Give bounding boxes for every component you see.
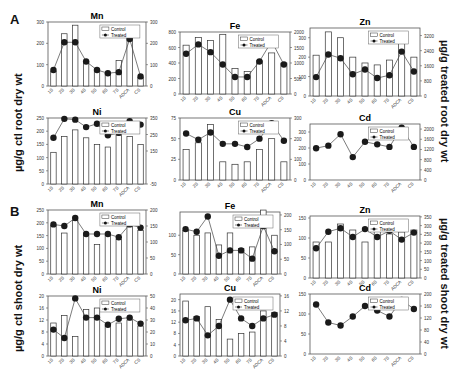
svg-text:25: 25 <box>171 157 177 162</box>
svg-text:7S: 7S <box>112 357 119 364</box>
svg-text:50: 50 <box>301 256 307 261</box>
svg-text:2000: 2000 <box>294 30 305 35</box>
legend: ControlTreated <box>369 127 409 140</box>
svg-text:3S: 3S <box>334 355 341 362</box>
svg-text:4S: 4S <box>212 357 219 364</box>
treated-marker <box>325 229 331 235</box>
treated-marker <box>105 322 111 328</box>
subplot-a-fe: Fe020040060080005001000150020001S2S3S4S5… <box>168 21 304 108</box>
treated-marker <box>207 129 213 135</box>
treated-marker <box>386 72 392 78</box>
control-bar <box>94 144 99 184</box>
svg-text:200: 200 <box>36 221 44 226</box>
svg-text:50: 50 <box>150 294 156 299</box>
svg-text:250: 250 <box>150 133 158 138</box>
svg-text:Treated: Treated <box>111 307 127 312</box>
svg-text:Treated: Treated <box>111 221 127 226</box>
treated-marker <box>238 315 244 321</box>
svg-text:6S: 6S <box>101 185 108 192</box>
treated-marker <box>362 139 368 145</box>
svg-text:Treated: Treated <box>380 39 396 44</box>
svg-text:10: 10 <box>150 342 156 347</box>
svg-text:ADCA: ADCA <box>390 355 402 367</box>
control-bar <box>83 61 88 86</box>
treated-marker <box>281 138 287 144</box>
svg-text:100: 100 <box>298 312 306 317</box>
legend: ControlTreated <box>369 219 409 232</box>
svg-text:150: 150 <box>36 234 44 239</box>
svg-text:0: 0 <box>294 92 297 97</box>
svg-text:1S: 1S <box>179 357 186 364</box>
treated-marker <box>50 221 56 227</box>
svg-text:Control: Control <box>250 37 265 42</box>
svg-text:5S: 5S <box>90 87 97 94</box>
svg-text:2S: 2S <box>322 97 329 104</box>
treated-marker <box>182 226 188 232</box>
svg-text:CS: CS <box>133 185 141 193</box>
svg-text:300: 300 <box>298 130 306 135</box>
treated-marker <box>374 141 380 147</box>
svg-text:40: 40 <box>424 340 430 345</box>
svg-text:2S: 2S <box>192 95 199 102</box>
control-bar <box>269 53 275 94</box>
treated-marker <box>249 323 255 329</box>
treated-marker <box>216 323 222 329</box>
svg-text:0: 0 <box>41 272 44 277</box>
treated-marker <box>350 234 356 240</box>
svg-text:5S: 5S <box>223 357 230 364</box>
svg-text:40: 40 <box>150 306 156 311</box>
treated-marker <box>220 141 226 147</box>
svg-text:2400: 2400 <box>424 49 435 54</box>
treated-marker <box>362 66 368 72</box>
svg-text:300: 300 <box>294 116 302 121</box>
control-bar <box>62 233 67 274</box>
svg-text:7S: 7S <box>245 357 252 364</box>
svg-text:ADCA: ADCA <box>260 95 272 107</box>
svg-text:5S: 5S <box>358 181 365 188</box>
svg-text:8: 8 <box>284 324 287 329</box>
control-bar <box>194 235 200 274</box>
svg-text:400: 400 <box>168 61 176 66</box>
svg-text:CS: CS <box>407 279 415 287</box>
svg-text:1500: 1500 <box>294 46 305 51</box>
svg-text:200: 200 <box>150 208 158 213</box>
treated-marker <box>256 58 262 64</box>
svg-text:100: 100 <box>298 75 306 80</box>
control-bar <box>94 245 99 274</box>
svg-text:1600: 1600 <box>424 64 435 69</box>
svg-text:160: 160 <box>424 304 432 309</box>
svg-text:0: 0 <box>173 92 176 97</box>
treated-marker <box>411 229 417 235</box>
control-bar <box>73 130 78 184</box>
treated-marker <box>137 320 143 326</box>
svg-text:150: 150 <box>284 228 292 233</box>
svg-text:CS: CS <box>277 181 285 189</box>
svg-text:1S: 1S <box>179 95 186 102</box>
treated-marker <box>193 315 199 321</box>
svg-text:5S: 5S <box>228 95 235 102</box>
svg-text:4: 4 <box>41 342 44 347</box>
svg-text:5S: 5S <box>228 181 235 188</box>
svg-text:7S: 7S <box>253 181 260 188</box>
svg-text:150: 150 <box>36 142 44 147</box>
svg-text:5S: 5S <box>358 97 365 104</box>
control-bar <box>249 332 255 356</box>
svg-text:2S: 2S <box>190 357 197 364</box>
treated-marker <box>350 313 356 319</box>
treated-marker <box>116 316 122 322</box>
svg-text:350: 350 <box>150 116 158 121</box>
svg-text:5S: 5S <box>90 185 97 192</box>
subplot-b-cd: Cd050100150040801201602001S2S3S4S5S6S7SA… <box>298 283 432 368</box>
svg-text:1S: 1S <box>47 357 54 364</box>
legend: ControlTreated <box>239 35 279 48</box>
svg-text:20: 20 <box>150 330 156 335</box>
svg-text:1S: 1S <box>47 275 54 282</box>
svg-text:1S: 1S <box>179 275 186 282</box>
treated-marker <box>325 142 331 148</box>
control-bar <box>127 136 132 184</box>
control-bar <box>338 38 344 96</box>
control-bar <box>138 230 143 274</box>
svg-text:12: 12 <box>171 320 177 325</box>
svg-text:Control: Control <box>380 299 395 304</box>
treated-marker <box>232 141 238 147</box>
